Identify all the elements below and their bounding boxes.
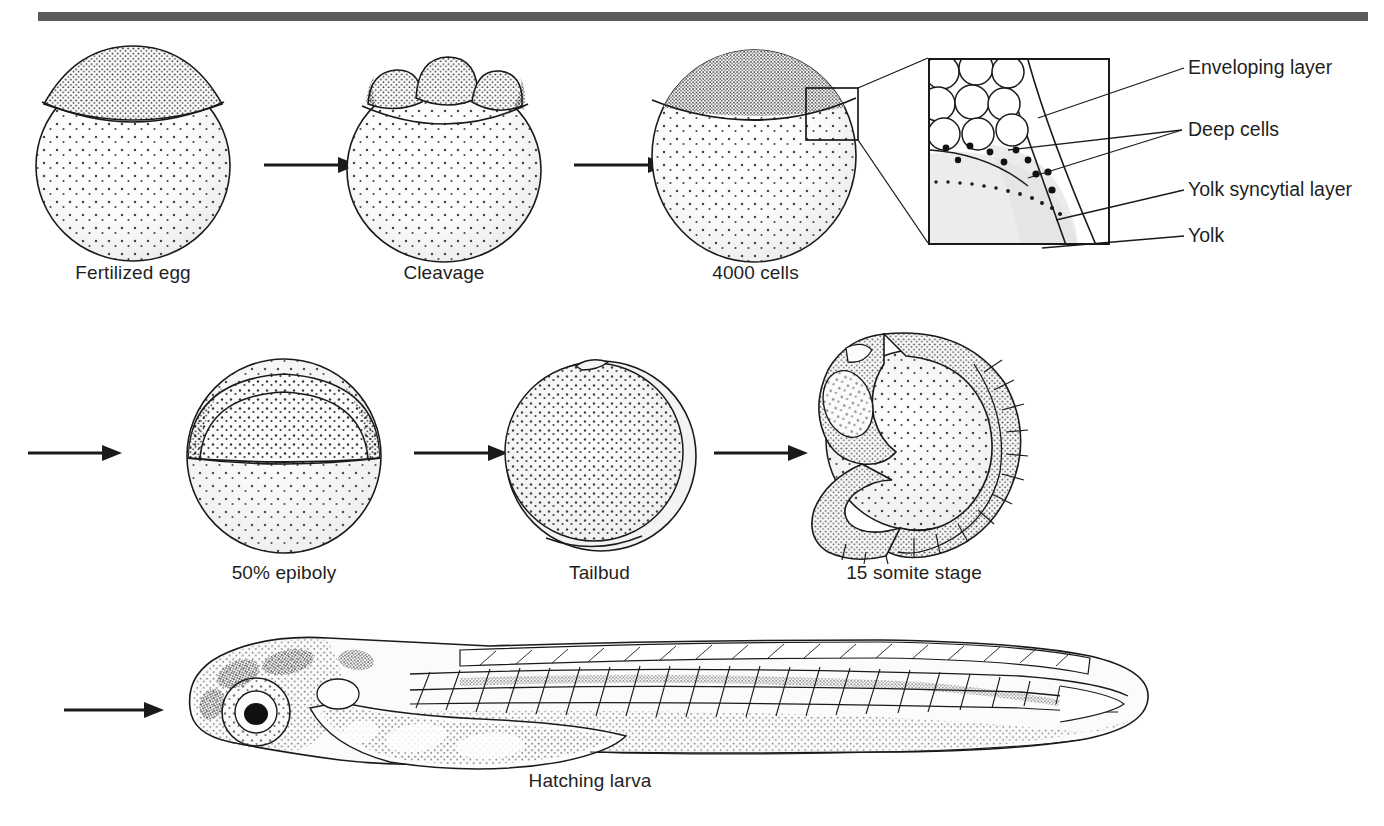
stage-label-50-epiboly: 50% epiboly bbox=[184, 562, 384, 584]
fertilized-egg-drawing bbox=[28, 42, 238, 267]
stage-figure-50-epiboly bbox=[184, 352, 384, 560]
arrow-6 bbox=[62, 695, 172, 725]
inset-label-enveloping-layer: Enveloping layer bbox=[1188, 56, 1332, 79]
top-divider-rule bbox=[38, 12, 1368, 21]
epiboly-drawing bbox=[184, 352, 384, 560]
inset-label-leaders bbox=[1108, 50, 1194, 260]
stage-label-4000-cells: 4000 cells bbox=[648, 262, 863, 284]
stage-label-tailbud: Tailbud bbox=[502, 562, 697, 584]
somite-stage-drawing bbox=[788, 312, 1040, 564]
arrow-3 bbox=[26, 438, 126, 468]
tailbud-drawing bbox=[502, 356, 697, 556]
inset-label-yolk-syncytial-layer: Yolk syncytial layer bbox=[1188, 178, 1352, 201]
inset-magnification bbox=[928, 58, 1110, 245]
stage-figure-fertilized-egg bbox=[28, 42, 238, 267]
hatching-larva-drawing bbox=[160, 612, 1190, 777]
cleavage-drawing bbox=[338, 42, 550, 267]
stage-figure-hatching-larva bbox=[160, 612, 1190, 777]
stage-label-hatching-larva: Hatching larva bbox=[440, 770, 740, 792]
stage-figure-tailbud bbox=[502, 356, 697, 556]
stage-figure-cleavage bbox=[338, 42, 550, 267]
stage-label-cleavage: Cleavage bbox=[338, 262, 550, 284]
arrow-4 bbox=[412, 438, 512, 468]
figure-canvas: Fertilized egg bbox=[0, 0, 1384, 826]
inset-label-yolk: Yolk bbox=[1188, 224, 1224, 247]
stage-label-15-somite: 15 somite stage bbox=[788, 562, 1040, 584]
stage-figure-15-somite bbox=[788, 312, 1040, 564]
callout-source-box bbox=[806, 88, 858, 140]
stage-label-fertilized-egg: Fertilized egg bbox=[28, 262, 238, 284]
inset-drawing bbox=[928, 58, 1110, 245]
inset-label-deep-cells: Deep cells bbox=[1188, 118, 1279, 141]
